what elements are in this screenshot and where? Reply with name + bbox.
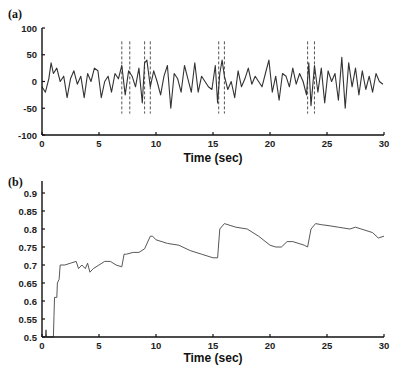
- signal-line: [42, 57, 383, 108]
- y-tick-label: 0.8: [24, 224, 37, 235]
- x-tick-label: 15: [208, 340, 219, 351]
- y-tick-label: 0.85: [19, 206, 38, 217]
- panel-a-label: (a): [8, 7, 22, 21]
- y-tick-label: 0.6: [24, 296, 37, 307]
- y-tick-label: -100: [18, 130, 37, 141]
- y-tick-label: -50: [23, 103, 37, 114]
- x-tick-label: 0: [39, 340, 44, 351]
- measure-line: [45, 224, 384, 337]
- x-tick-label: 30: [379, 138, 390, 149]
- x-tick-label: 25: [322, 340, 333, 351]
- y-tick-label: 0.75: [19, 242, 38, 253]
- panel-b-label: (b): [8, 175, 23, 189]
- panel-a: (a) -100-50050100 051015202530 Time (sec…: [8, 7, 389, 165]
- x-tick-label: 20: [265, 340, 276, 351]
- x-tick-label: 5: [96, 138, 102, 149]
- x-axis-title: Time (sec): [183, 351, 242, 365]
- y-tick-label: 0.7: [24, 260, 37, 271]
- y-tick-label: 0.9: [24, 188, 37, 199]
- x-tick-label: 20: [265, 138, 276, 149]
- x-axis-title: Time (sec): [183, 151, 242, 165]
- y-tick-label: 0.65: [19, 278, 38, 289]
- x-tick-label: 15: [208, 138, 219, 149]
- x-axis: 051015202530: [39, 132, 389, 149]
- y-tick-label: 50: [26, 49, 37, 60]
- x-tick-label: 10: [151, 138, 162, 149]
- x-axis: 051015202530: [39, 334, 389, 351]
- y-tick-label: 0.55: [19, 314, 38, 325]
- x-tick-label: 30: [379, 340, 390, 351]
- x-tick-label: 25: [322, 138, 333, 149]
- y-tick-label: 0.5: [24, 332, 38, 343]
- y-tick-label: 100: [21, 23, 37, 34]
- x-tick-label: 10: [151, 340, 162, 351]
- panel-b: (b) 0.50.550.60.650.70.750.80.850.9 0510…: [8, 175, 389, 365]
- y-axis: 0.50.550.60.650.70.750.80.850.9: [19, 181, 46, 343]
- y-tick-label: 0: [32, 76, 37, 87]
- y-axis: -100-50050100: [18, 23, 45, 141]
- x-tick-label: 5: [96, 340, 102, 351]
- figure: (a) -100-50050100 051015202530 Time (sec…: [0, 0, 401, 379]
- x-tick-label: 0: [39, 138, 44, 149]
